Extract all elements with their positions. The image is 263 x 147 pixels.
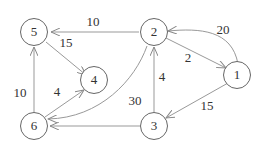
node-6: 6 bbox=[20, 112, 48, 140]
edge-2-1 bbox=[166, 38, 226, 68]
edge-6-4 bbox=[45, 90, 84, 117]
node-2: 2 bbox=[140, 18, 168, 46]
node-3: 3 bbox=[140, 112, 168, 140]
edge-label-2-6: 30 bbox=[129, 94, 142, 107]
edge-label-5-4: 15 bbox=[60, 36, 73, 49]
edge-label-1-3: 15 bbox=[201, 99, 214, 112]
edge-label-3-2: 4 bbox=[159, 70, 166, 83]
edge-label-2-1: 2 bbox=[185, 51, 192, 64]
node-1: 1 bbox=[223, 61, 251, 89]
edge-label-6-4: 4 bbox=[54, 85, 61, 98]
node-5: 5 bbox=[20, 18, 48, 46]
edge-label-6-5: 10 bbox=[14, 86, 27, 99]
node-4: 4 bbox=[80, 66, 108, 94]
directed-graph: 10 15 2 20 10 4 30 4 15 1 2 3 4 5 6 bbox=[0, 0, 263, 147]
edge-label-1-2: 20 bbox=[217, 23, 230, 36]
edge-label-2-5: 10 bbox=[87, 15, 100, 28]
edge-1-3 bbox=[166, 83, 228, 118]
